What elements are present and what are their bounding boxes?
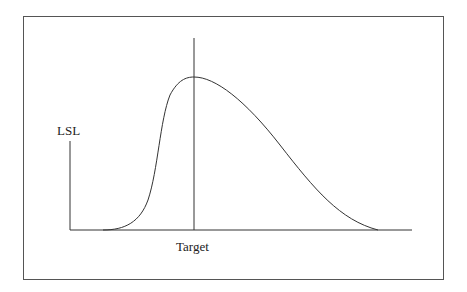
lsl-label: LSL <box>57 123 80 138</box>
diagram-canvas: LSL Target <box>0 0 467 292</box>
frame-border <box>24 17 444 280</box>
target-label: Target <box>176 239 209 254</box>
distribution-curve <box>103 77 378 230</box>
